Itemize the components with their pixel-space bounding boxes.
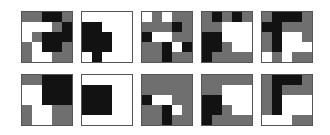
grid-cell [142,12,152,22]
grid-cell [292,22,302,32]
grid-cell [232,85,242,95]
grid-cell [112,75,122,85]
grid-cell [82,52,92,62]
grid-cell [142,95,152,105]
grid-cell [272,75,282,85]
grid-cell [52,22,62,32]
grid-cell [102,22,112,32]
grid-cell [262,75,272,85]
grid-cell [102,32,112,42]
grid-cell [212,42,222,52]
grid-cell [52,85,62,95]
grid-cell [82,32,92,42]
grid-cell [272,42,282,52]
grid-cell [122,105,132,115]
grid-cell [152,42,162,52]
grid-cell [82,105,92,115]
grid-cell [62,85,72,95]
grid-cell [42,32,52,42]
grid-cell [292,42,302,52]
grid-cell [32,95,42,105]
grid-cell [162,115,172,125]
grid-cell [32,32,42,42]
grid-cell [112,12,122,22]
grid-cell [232,12,242,22]
grid-cell [242,75,252,85]
grid-cell [212,32,222,42]
grid-cell [232,32,242,42]
grid-cell [302,42,312,52]
grid-cell [122,52,132,62]
grid-cell [142,85,152,95]
grid-cell [142,22,152,32]
grid-cell [22,95,32,105]
grid-cell [32,12,42,22]
grid-cell [92,12,102,22]
grid-cell [152,22,162,32]
grid-cell [232,42,242,52]
grid-cell [92,115,102,125]
grid-cell [162,85,172,95]
grid-cell [212,85,222,95]
grid-cell [22,42,32,52]
grid-cell [262,85,272,95]
grid-cell [162,32,172,42]
grid-cell [112,32,122,42]
grid-cell [242,12,252,22]
grid-cell [42,85,52,95]
grid-cell [232,75,242,85]
grid-cell [142,105,152,115]
grid-cell [202,115,212,125]
grid-cell [182,105,192,115]
grid-cell [202,12,212,22]
grid-cell [102,42,112,52]
grid-cell [282,95,292,105]
grid-cell [282,105,292,115]
grid-cell [112,42,122,52]
grid-cell [122,115,132,125]
grid-cell [162,12,172,22]
grid-cell [62,52,72,62]
grid-cell [42,105,52,115]
grid-cell [142,115,152,125]
pattern-grid-1 [21,11,73,63]
grid-cell [42,22,52,32]
pattern-grid-9 [201,74,253,126]
grid-cell [202,85,212,95]
grid-cell [242,85,252,95]
pattern-grid-4 [201,11,253,63]
grid-cell [102,85,112,95]
grid-cell [42,12,52,22]
grid-cell [302,75,312,85]
grid-cell [172,115,182,125]
grid-cell [92,52,102,62]
pattern-grid-7 [81,74,133,126]
grid-cell [42,95,52,105]
grid-cell [202,42,212,52]
grid-cell [152,115,162,125]
grid-cell [182,95,192,105]
grid-cell [152,32,162,42]
grid-cell [22,22,32,32]
grid-cell [62,95,72,105]
grid-cell [52,115,62,125]
grid-cell [142,75,152,85]
grid-cell [272,95,282,105]
grid-cell [162,95,172,105]
grid-cell [222,95,232,105]
grid-cell [222,42,232,52]
grid-cell [122,42,132,52]
grid-cell [122,12,132,22]
grid-cell [262,42,272,52]
grid-cell [42,52,52,62]
grid-cell [262,105,272,115]
grid-cell [122,22,132,32]
grid-cell [222,52,232,62]
grid-cell [222,75,232,85]
grid-cell [102,52,112,62]
grid-cell [32,105,42,115]
grid-cell [242,95,252,105]
grid-cell [222,12,232,22]
grid-cell [112,105,122,115]
grid-cell [92,75,102,85]
